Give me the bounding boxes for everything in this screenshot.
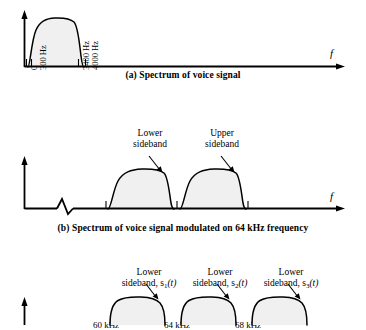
callout-sideband-1: Lower sideband, s1(t) bbox=[113, 267, 185, 290]
caption-panel-a: (a) Spectrum of voice signal bbox=[0, 70, 366, 80]
x-axis-arrowhead-b bbox=[336, 205, 345, 211]
callout-sideband-1-line1: Lower bbox=[113, 267, 185, 278]
callout-sideband-2-prefix: sideband, s bbox=[193, 278, 235, 288]
callout-sideband-1-line2: sideband, s1(t) bbox=[113, 278, 185, 290]
panel-a-voice-spectrum: 0 300 Hz 3400 Hz 4000 Hz bbox=[0, 0, 366, 110]
callout-sideband-2-line1: Lower bbox=[184, 267, 256, 278]
frequency-axis-letter-b: f bbox=[330, 190, 333, 202]
callout-sideband-1-prefix: sideband, s bbox=[122, 278, 164, 288]
callout-sideband-2-line2: sideband, s2(t) bbox=[184, 278, 256, 290]
tick-label-300hz: 300 Hz bbox=[38, 45, 48, 70]
frequency-axis-letter-a: f bbox=[330, 47, 333, 59]
panel-a-plot bbox=[0, 0, 366, 110]
axis-break-zigzag bbox=[57, 199, 73, 214]
callout-lower-sideband-b-line1: Lower bbox=[118, 128, 182, 139]
callout-upper-sideband-b: Upper sideband bbox=[190, 128, 254, 150]
tick-label-4000hz: 4000 Hz bbox=[90, 41, 100, 70]
callout-sideband-3-line1: Lower bbox=[255, 267, 327, 278]
callout-sideband-1-suffix: (t) bbox=[167, 278, 176, 288]
callout-lower-sideband-b: Lower sideband bbox=[118, 128, 182, 150]
y-axis-arrowhead-a bbox=[21, 10, 27, 19]
y-axis-arrowhead-b bbox=[21, 156, 27, 165]
callout-upper-sideband-b-line1: Upper bbox=[190, 128, 254, 139]
callout-sideband-2: Lower sideband, s2(t) bbox=[184, 267, 256, 290]
callout-sideband-2-suffix: (t) bbox=[238, 278, 247, 288]
upper-sideband-leader-line bbox=[221, 156, 232, 170]
caption-panel-b: (b) Spectrum of voice signal modulated o… bbox=[0, 223, 366, 233]
lower-sideband-leader-line bbox=[149, 156, 160, 170]
callout-sideband-1-subscript: 1 bbox=[164, 282, 168, 290]
callout-sideband-2-subscript: 2 bbox=[235, 282, 239, 290]
x-axis-arrowhead-a bbox=[336, 63, 345, 69]
callout-upper-sideband-b-line2: sideband bbox=[190, 139, 254, 150]
callout-sideband-3-line2: sideband, s3(t) bbox=[255, 278, 327, 290]
lower-sideband-area bbox=[108, 169, 174, 209]
upper-sideband-area bbox=[180, 169, 246, 209]
callout-lower-sideband-b-line2: sideband bbox=[118, 139, 182, 150]
callout-sideband-3-prefix: sideband, s bbox=[264, 278, 306, 288]
callout-sideband-3: Lower sideband, s3(t) bbox=[255, 267, 327, 290]
callout-sideband-3-subscript: 3 bbox=[306, 282, 310, 290]
y-axis-arrowhead-c bbox=[21, 297, 27, 306]
callout-sideband-3-suffix: (t) bbox=[309, 278, 318, 288]
